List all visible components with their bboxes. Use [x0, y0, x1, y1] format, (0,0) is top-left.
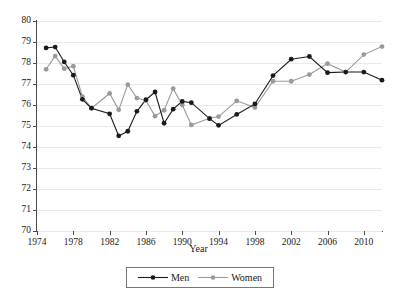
data-point	[62, 66, 67, 71]
data-point	[216, 123, 221, 128]
x-tick	[182, 231, 183, 235]
x-tick	[146, 231, 147, 235]
x-tick	[73, 231, 74, 235]
y-tick-label: 79	[5, 37, 31, 47]
data-point	[134, 96, 139, 101]
series-layer	[37, 21, 382, 231]
y-tick-label: 76	[5, 100, 31, 110]
data-point	[134, 109, 139, 114]
data-point	[162, 121, 167, 126]
data-point	[107, 91, 112, 96]
x-tick	[364, 231, 365, 235]
data-point	[71, 64, 76, 69]
x-tick	[328, 231, 329, 235]
data-point	[307, 72, 312, 77]
data-point	[216, 114, 221, 119]
y-tick-label: 72	[5, 184, 31, 194]
data-point	[153, 114, 158, 119]
data-point	[252, 102, 257, 107]
y-tick-label: 73	[5, 163, 31, 173]
data-point	[144, 97, 149, 102]
data-point	[289, 79, 294, 84]
y-tick-label: 74	[5, 142, 31, 152]
data-point	[62, 60, 67, 65]
data-point	[189, 100, 194, 105]
data-point	[171, 86, 176, 91]
markers-women	[44, 44, 385, 127]
data-point	[380, 78, 385, 83]
x-tick	[37, 231, 38, 235]
legend-label-women: Women	[231, 273, 262, 283]
data-point	[271, 73, 276, 78]
x-tick	[255, 231, 256, 235]
data-point	[53, 54, 58, 59]
legend-entry-men: Men	[138, 273, 189, 283]
data-point	[325, 61, 330, 66]
data-point	[207, 116, 212, 121]
y-tick-label: 71	[5, 205, 31, 215]
data-point	[325, 70, 330, 75]
y-tick-label: 70	[5, 226, 31, 236]
data-point	[289, 57, 294, 62]
data-point	[107, 111, 112, 116]
legend-swatch-men	[138, 273, 168, 282]
data-point	[180, 99, 185, 104]
data-point	[361, 70, 366, 75]
data-point	[153, 90, 158, 95]
y-tick-label: 77	[5, 79, 31, 89]
data-point	[116, 107, 121, 112]
legend-entry-women: Women	[198, 273, 262, 283]
x-tick	[110, 231, 111, 235]
data-point	[380, 44, 385, 49]
data-point	[307, 54, 312, 59]
data-point	[361, 52, 366, 57]
y-tick-label: 80	[5, 16, 31, 26]
data-point	[44, 67, 49, 72]
x-tick	[219, 231, 220, 235]
data-point	[80, 97, 85, 102]
data-point	[89, 106, 94, 111]
line-men	[46, 47, 382, 136]
chart-legend: Men Women	[126, 267, 274, 288]
data-point	[171, 107, 176, 112]
y-tick-label: 75	[5, 121, 31, 131]
legend-swatch-women	[198, 273, 228, 282]
data-point	[125, 82, 130, 87]
plot-area: 7071727374757677787980 19741978198219861…	[37, 21, 382, 231]
data-point	[44, 45, 49, 50]
data-point	[189, 123, 194, 128]
data-point	[343, 70, 348, 75]
markers-men	[44, 45, 385, 139]
data-point	[53, 45, 58, 50]
chart-root: 7071727374757677787980 19741978198219861…	[0, 0, 397, 297]
data-point	[125, 129, 130, 134]
data-point	[162, 108, 167, 113]
data-point	[234, 112, 239, 117]
line-women	[46, 47, 382, 125]
gridline	[37, 231, 382, 232]
x-tick	[291, 231, 292, 235]
data-point	[71, 73, 76, 78]
y-tick-label: 78	[5, 58, 31, 68]
legend-label-men: Men	[171, 273, 189, 283]
data-point	[271, 79, 276, 84]
data-point	[234, 98, 239, 103]
x-axis-title: Year	[0, 243, 397, 254]
data-point	[116, 133, 121, 138]
